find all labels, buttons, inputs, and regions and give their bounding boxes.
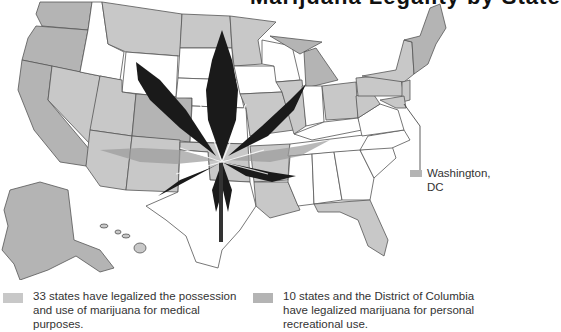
legend-text-medical: 33 states have legalized the possession … <box>33 289 236 331</box>
legend-recreational: 10 states and the District of Columbia h… <box>253 289 474 331</box>
us-map <box>0 0 493 280</box>
state-florida <box>314 200 388 256</box>
state-hawaii <box>100 224 146 253</box>
dc-label-line2: DC <box>427 180 491 194</box>
legend-swatch-recreational <box>253 293 273 303</box>
state-new-mexico <box>126 136 180 192</box>
dc-label-line1: Washington, <box>427 166 491 180</box>
legend-recreational-line2: have legalized marijuana for personal <box>283 303 474 317</box>
state-new-york <box>362 40 414 82</box>
state-indiana <box>302 86 324 126</box>
legend-recreational-line1: 10 states and the District of Columbia <box>283 289 474 303</box>
dc-swatch <box>410 170 422 177</box>
legend-medical: 33 states have legalized the possession … <box>3 289 236 331</box>
state-washington <box>36 2 92 30</box>
legend-medical-line1: 33 states have legalized the possession <box>33 289 236 303</box>
legend-recreational-line3: recreational use. <box>283 317 474 331</box>
legend-medical-line3: purposes. <box>33 317 236 331</box>
legend-medical-line2: and use of marijuana for medical <box>33 303 236 317</box>
state-arizona <box>86 130 132 190</box>
legend-text-recreational: 10 states and the District of Columbia h… <box>283 289 474 331</box>
state-ohio <box>322 82 358 120</box>
dc-callout-label: Washington, DC <box>427 166 491 194</box>
legend-swatch-medical <box>3 293 23 303</box>
state-alaska <box>2 182 114 280</box>
